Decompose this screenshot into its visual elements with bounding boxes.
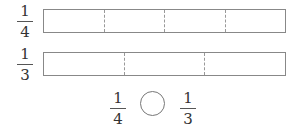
strip-segment [104,10,165,32]
numerator: 1 [113,91,123,106]
denominator: 3 [183,112,193,127]
strip-segment [44,10,104,32]
fraction-bar [17,21,33,22]
numerator: 1 [20,47,30,62]
fraction-label-quarter: 1 4 [16,4,34,40]
fraction-strip-quarters [43,9,286,33]
numerator: 1 [20,4,30,19]
strip-segment [44,53,124,75]
strip-segment [204,53,285,75]
comparison-answer-circle[interactable] [140,91,165,116]
denominator: 4 [20,25,30,40]
denominator: 3 [20,68,30,83]
fraction-strip-thirds [43,52,286,76]
compare-left-fraction: 1 4 [109,91,127,127]
fraction-label-third: 1 3 [16,47,34,83]
denominator: 4 [113,112,123,127]
fraction-bar [180,108,196,109]
fraction-bar [110,108,126,109]
fraction-bar [17,64,33,65]
strip-segment [225,10,286,32]
numerator: 1 [183,91,193,106]
strip-segment [164,10,225,32]
compare-right-fraction: 1 3 [179,91,197,127]
strip-segment [124,53,205,75]
